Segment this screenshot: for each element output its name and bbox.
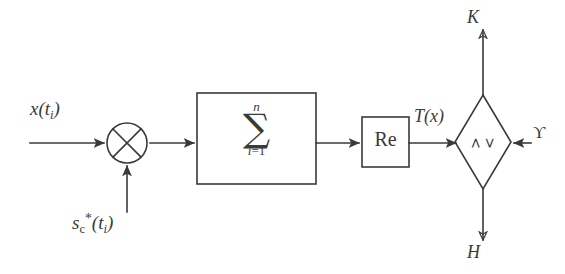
comparator-operator-group: > < (469, 123, 497, 163)
sigma-icon: ∑ (197, 110, 316, 146)
test-statistic-label: T(x) (414, 107, 444, 125)
real-part-block-label: Re (362, 129, 409, 149)
hypothesis-k-label: K (467, 8, 479, 26)
comparator-operator-less: < (469, 137, 483, 149)
comparator-operator-greater: > (483, 137, 497, 149)
hypothesis-h-label: H (467, 243, 480, 261)
summation-symbol-group: n ∑ i=1 (197, 100, 316, 157)
input-signal-label: x(ti) (30, 99, 60, 121)
summation-lower-limit: i=1 (197, 144, 316, 157)
diagram-canvas: x(ti) sc*(ti) n ∑ i=1 Re T(x) > < K H ϒ (0, 0, 565, 274)
threshold-label: ϒ (533, 124, 545, 141)
reference-signal-label: sc*(ti) (72, 212, 113, 235)
